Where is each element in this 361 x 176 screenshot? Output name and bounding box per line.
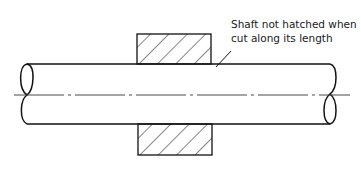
upper-hub-section [137,34,211,64]
right-break-symbol [324,64,336,124]
shaft [27,64,330,124]
annotation-line-1: Shaft not hatched when [231,17,357,31]
lower-hub-section [138,124,212,155]
left-break-symbol [21,64,33,124]
annotation-line-2: cut along its length [231,31,357,45]
annotation-label: Shaft not hatched when cut along its len… [231,17,357,45]
